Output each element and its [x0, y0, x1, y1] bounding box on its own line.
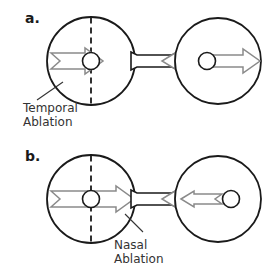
panel-b-left-eye-lens [83, 191, 100, 208]
figure-root: a. [0, 0, 271, 277]
panel-a-left-eye-lens [83, 53, 100, 70]
panel-b-right-eye-lens [223, 191, 240, 208]
panel-a-right-eye [175, 18, 261, 104]
panel-b-annotation-line1: Nasal [114, 238, 147, 252]
panel-b-right-eye [175, 156, 261, 242]
panel-b-left-eye [47, 155, 135, 243]
panel-a-right-eye-lens [199, 53, 216, 70]
panel-b: b. [25, 148, 261, 266]
panel-a-left-eye [47, 17, 135, 105]
ablation-diagram: a. [0, 0, 271, 277]
panel-b-label: b. [25, 148, 40, 164]
panel-a-optic-nerve [131, 52, 178, 70]
panel-b-annotation-line2: Ablation [114, 252, 164, 266]
panel-a-label: a. [25, 10, 40, 26]
panel-a-annotation-line1: Temporal [22, 101, 78, 115]
panel-a: a. [22, 10, 261, 129]
panel-a-annotation-line2: Ablation [23, 115, 73, 129]
panel-b-optic-nerve [131, 190, 178, 208]
